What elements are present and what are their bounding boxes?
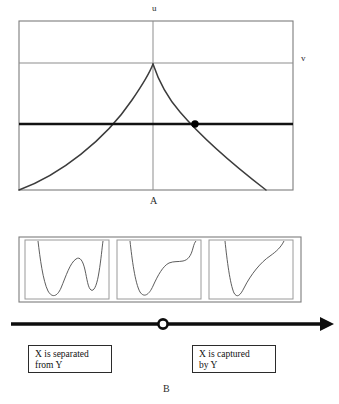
panel-b-label: B xyxy=(163,384,170,394)
panel-b-subpanel-1-curve xyxy=(38,241,103,296)
panel-b-subpanel-2 xyxy=(117,240,201,299)
callout-separated-line-2: from Y xyxy=(35,360,106,371)
panel-b-subpanel-3-curve xyxy=(225,241,284,296)
panel-a xyxy=(19,21,293,190)
parameter-axis-arrow xyxy=(11,317,334,331)
panel-a-label: A xyxy=(150,196,157,206)
callout-separated-line-1: X is separated xyxy=(35,349,106,360)
panel-a-right-branch xyxy=(153,64,266,190)
panel-b-subpanel-1 xyxy=(25,240,109,299)
panel-b-subpanel-2-frame xyxy=(117,240,201,299)
callout-captured-line-2: by Y xyxy=(199,360,270,371)
figure-root xyxy=(0,0,339,404)
panel-b-subpanel-3-frame xyxy=(209,240,293,299)
parameter-axis-arrowhead xyxy=(320,317,334,331)
panel-a-marker-point xyxy=(191,120,198,127)
callout-separated: X is separated from Y xyxy=(28,345,112,373)
panel-a-left-branch xyxy=(19,64,153,190)
panel-b-subpanel-2-curve xyxy=(130,241,196,295)
panel-b-subpanel-1-frame xyxy=(25,240,109,299)
callout-captured: X is captured by Y xyxy=(192,345,276,373)
callout-captured-line-1: X is captured xyxy=(199,349,270,360)
panel-a-frame xyxy=(19,21,293,190)
panel-b-outer-frame xyxy=(19,237,301,302)
axis-label-v: v xyxy=(301,54,306,63)
panel-b-subpanel-3 xyxy=(209,240,293,299)
axis-label-u: u xyxy=(152,4,157,13)
panel-b xyxy=(11,237,334,331)
critical-point-marker xyxy=(158,319,167,328)
